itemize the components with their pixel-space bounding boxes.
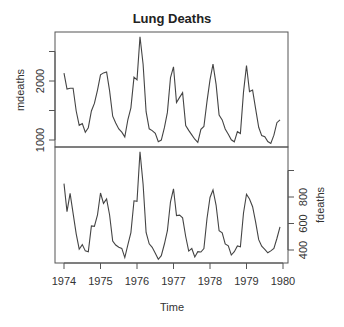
- y-tick-label: 600: [297, 214, 309, 232]
- x-tick-label: 1974: [52, 275, 76, 287]
- x-tick-label: 1975: [88, 275, 112, 287]
- y-tick-label: 2000: [34, 69, 46, 93]
- fdeaths-y-axis: 400600800: [288, 171, 309, 260]
- mdeaths-line: [64, 37, 280, 144]
- x-axis-label: Time: [160, 301, 184, 313]
- x-tick-label: 1977: [161, 275, 185, 287]
- x-tick-label: 1978: [198, 275, 222, 287]
- y-tick-label: 1000: [34, 128, 46, 152]
- x-tick-label: 1979: [234, 275, 258, 287]
- fdeaths-y-label: fdeaths: [314, 186, 326, 223]
- y-tick-label: 400: [297, 241, 309, 259]
- y-tick-label: 800: [297, 188, 309, 206]
- fdeaths-panel-frame: [55, 147, 288, 263]
- mdeaths-y-label: mdeaths: [14, 68, 26, 111]
- x-tick-label: 1976: [125, 275, 149, 287]
- x-tick-label: 1980: [271, 275, 295, 287]
- time-x-axis: 1974197519761977197819791980: [52, 263, 295, 287]
- fdeaths-line: [64, 152, 280, 259]
- mdeaths-y-axis: 10002000: [34, 52, 55, 153]
- lung-deaths-chart: Lung Deaths 10002000 400600800 197419751…: [0, 0, 344, 327]
- chart-title: Lung Deaths: [133, 11, 212, 26]
